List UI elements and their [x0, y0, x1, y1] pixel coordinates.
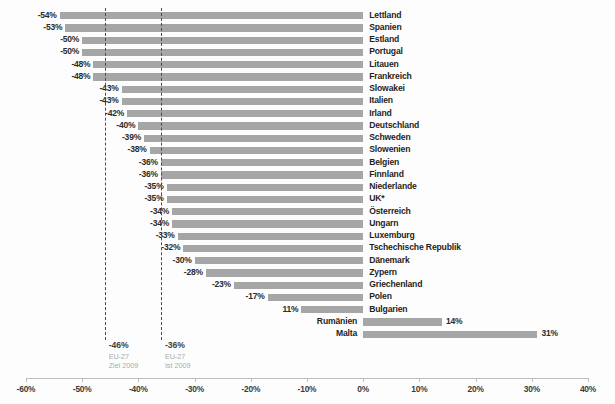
x-tick-label: -20% — [241, 384, 260, 394]
bar — [178, 233, 363, 240]
category-label: Lettland — [369, 10, 401, 21]
x-tick-label: -60% — [17, 384, 36, 394]
category-label: Tschechische Republik — [369, 242, 461, 253]
bar-row: -40%Deutschland — [0, 120, 615, 132]
bar-row: -35%UK* — [0, 194, 615, 206]
bar-row: -48%Frankreich — [0, 71, 615, 83]
bar-row: -36%Belgien — [0, 157, 615, 169]
bar-row: -43%Slowakei — [0, 84, 615, 96]
bar-row: -50%Estland — [0, 35, 615, 47]
category-label: Schweden — [369, 132, 410, 143]
category-label: Italien — [369, 95, 393, 106]
bar-row: -48%Litauen — [0, 59, 615, 71]
bar — [268, 294, 364, 301]
bar-value-label: -35% — [0, 181, 164, 192]
bar-row: -30%Dänemark — [0, 255, 615, 267]
x-tick — [307, 378, 308, 382]
bar-row: -33%Luxemburg — [0, 231, 615, 243]
category-label: Griechenland — [369, 279, 422, 290]
x-tick — [363, 378, 364, 382]
category-label: Estland — [369, 34, 399, 45]
bar — [138, 122, 363, 129]
bar-row: -34%Ungarn — [0, 218, 615, 230]
reference-year: Ist 2009 — [165, 361, 191, 371]
bar-row: -35%Niederlande — [0, 182, 615, 194]
bar-value-label: -50% — [0, 34, 79, 45]
category-label: Litauen — [369, 59, 399, 70]
bar-value-label: 11% — [0, 304, 298, 315]
bar-row: -17%Polen — [0, 292, 615, 304]
bar-value-label: -54% — [0, 10, 57, 21]
bar-value-label: -36% — [0, 169, 158, 180]
x-tick-label: -50% — [73, 384, 92, 394]
x-tick — [251, 378, 252, 382]
bar-value-label: -35% — [0, 193, 164, 204]
bar — [150, 147, 364, 154]
bar-row: 11%Bulgarien — [0, 304, 615, 316]
reference-value: -36% — [165, 340, 191, 352]
x-tick — [195, 378, 196, 382]
reference-line-label-2: -36%EU-27Ist 2009 — [165, 340, 191, 371]
x-tick — [26, 378, 27, 382]
bar — [144, 135, 363, 142]
category-label: Deutschland — [369, 120, 419, 131]
bar-row: -32%Tschechische Republik — [0, 243, 615, 255]
bar-row: -38%Slowenien — [0, 145, 615, 157]
bar — [82, 49, 363, 56]
reference-name: EU-27 — [109, 352, 139, 362]
bar-row: 31%Malta — [0, 329, 615, 341]
bar-value-label: -28% — [0, 267, 203, 278]
bar — [127, 110, 363, 117]
x-tick — [138, 378, 139, 382]
bar — [65, 24, 363, 31]
bar-value-label: -34% — [0, 218, 169, 229]
bar — [167, 196, 364, 203]
bar — [172, 220, 363, 227]
category-label: Irland — [369, 108, 392, 119]
category-label: Dänemark — [369, 255, 409, 266]
bar-value-label: -39% — [0, 132, 141, 143]
category-label: Österreich — [369, 206, 411, 217]
x-tick — [532, 378, 533, 382]
plot-area: -54%Lettland-53%Spanien-50%Estland-50%Po… — [0, 6, 615, 371]
bar — [161, 159, 363, 166]
bar-row: -42%Irland — [0, 108, 615, 120]
bar-value-label: -30% — [0, 255, 192, 266]
bar — [172, 208, 363, 215]
x-tick — [588, 378, 589, 382]
category-label: Malta — [0, 328, 357, 339]
bar-value-label: -43% — [0, 83, 119, 94]
bar-value-label: -36% — [0, 157, 158, 168]
bar-value-label: -40% — [0, 120, 135, 131]
category-label: Luxemburg — [369, 230, 414, 241]
bar — [206, 269, 363, 276]
category-label: Frankreich — [369, 71, 411, 82]
category-label: Ungarn — [369, 218, 398, 229]
x-tick-label: 10% — [411, 384, 427, 394]
bar-row: 14%Rumänien — [0, 316, 615, 328]
x-tick-label: -40% — [129, 384, 148, 394]
bar — [167, 184, 364, 191]
reference-name: EU-27 — [165, 352, 191, 362]
bar — [363, 318, 442, 325]
bar-row: -53%Spanien — [0, 22, 615, 34]
bar — [93, 73, 363, 80]
category-label: Spanien — [369, 22, 401, 33]
category-label: Finnland — [369, 169, 404, 180]
bar-value-label: -50% — [0, 46, 79, 57]
category-label: Belgien — [369, 157, 399, 168]
bar-chart: -54%Lettland-53%Spanien-50%Estland-50%Po… — [0, 0, 615, 404]
bar-value-label: -38% — [0, 144, 147, 155]
bar-value-label: -33% — [0, 230, 175, 241]
category-label: Zypern — [369, 267, 397, 278]
category-label: UK* — [369, 193, 384, 204]
category-label: Niederlande — [369, 181, 417, 192]
bar-row: -39%Schweden — [0, 133, 615, 145]
x-tick-label: 30% — [524, 384, 540, 394]
bar — [234, 282, 363, 289]
x-tick — [82, 378, 83, 382]
reference-year: Ziel 2009 — [109, 361, 139, 371]
bar-value-label: -32% — [0, 242, 180, 253]
x-tick-label: 0% — [357, 384, 369, 394]
x-tick-label: 40% — [580, 384, 596, 394]
